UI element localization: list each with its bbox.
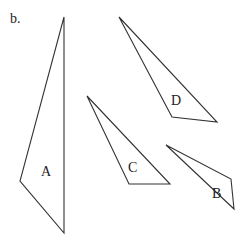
triangle-a: A: [20, 17, 64, 233]
triangle-d: D: [119, 17, 217, 122]
triangle-b: B: [166, 145, 234, 209]
triangle-b-label: B: [212, 186, 221, 201]
triangles-diagram: b. A D C B: [0, 0, 238, 251]
triangle-b-shape: [166, 145, 234, 209]
triangle-c: C: [87, 96, 170, 184]
part-label: b.: [10, 11, 21, 26]
triangle-a-shape: [20, 17, 64, 233]
triangle-d-label: D: [171, 93, 181, 108]
triangle-a-label: A: [41, 164, 52, 179]
triangle-c-label: C: [128, 160, 137, 175]
triangle-d-shape: [119, 17, 217, 122]
